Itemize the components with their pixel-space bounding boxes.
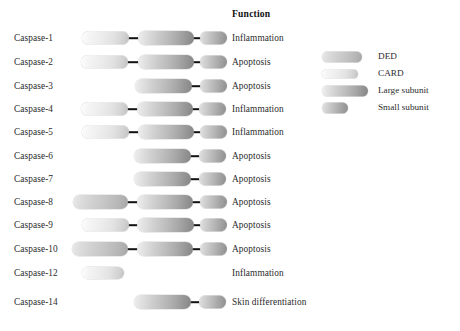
domain-track	[0, 27, 232, 49]
domain-small	[200, 32, 227, 45]
legend-item: Small subunit	[322, 99, 458, 116]
function-label: Inflammation	[232, 98, 284, 120]
legend-item: CARD	[322, 65, 458, 82]
domain-track	[0, 51, 232, 73]
domain-large	[137, 242, 193, 256]
function-label: Apoptosis	[232, 145, 271, 167]
function-label: Apoptosis	[232, 168, 271, 190]
domain-card	[81, 103, 128, 116]
caspase-row: Caspase-9Apoptosis	[0, 214, 460, 236]
legend-item: Large subunit	[322, 82, 458, 99]
legend-label: Small subunit	[378, 99, 429, 116]
domain-small	[200, 219, 227, 232]
domain-small	[200, 56, 227, 69]
domain-large	[134, 149, 191, 163]
domain-track	[0, 191, 232, 213]
caspase-row: Caspase-5Inflammation	[0, 121, 460, 143]
legend-swatch-small	[322, 102, 348, 113]
caspase-row: Caspase-14Skin differentiation	[0, 291, 460, 313]
caspase-row: Caspase-12Inflammation	[0, 262, 460, 284]
domain-small	[199, 296, 226, 309]
legend: DEDCARDLarge subunitSmall subunit	[322, 48, 458, 116]
caspase-row: Caspase-8Apoptosis	[0, 191, 460, 213]
function-label: Inflammation	[232, 262, 284, 284]
domain-track	[0, 262, 232, 284]
legend-label: CARD	[378, 65, 404, 82]
caspase-row: Caspase-10Apoptosis	[0, 238, 460, 260]
domain-large	[137, 218, 194, 232]
legend-swatch-ded	[322, 51, 362, 62]
domain-small	[200, 80, 227, 93]
domain-small	[200, 126, 227, 139]
domain-large	[137, 102, 193, 116]
domain-large	[134, 295, 191, 309]
function-label: Apoptosis	[232, 191, 271, 213]
domain-track	[0, 145, 232, 167]
domain-card	[82, 219, 129, 232]
domain-track	[0, 238, 232, 260]
caspase-row: Caspase-1Inflammation	[0, 27, 460, 49]
domain-track	[0, 168, 232, 190]
domain-large	[137, 195, 193, 209]
domain-track	[0, 291, 232, 313]
function-label: Inflammation	[232, 121, 284, 143]
domain-large	[138, 125, 194, 139]
domain-large	[135, 79, 192, 93]
domain-large	[138, 55, 194, 69]
legend-label: DED	[378, 48, 397, 65]
domain-track	[0, 214, 232, 236]
function-label: Inflammation	[232, 27, 284, 49]
legend-swatch-large	[322, 85, 368, 96]
domain-large	[134, 172, 191, 186]
function-column-header: Function	[232, 8, 270, 19]
domain-small	[199, 150, 226, 163]
legend-swatch-card	[322, 69, 358, 78]
function-label: Apoptosis	[232, 51, 271, 73]
domain-small	[199, 173, 226, 186]
domain-ded	[73, 195, 128, 209]
domain-card	[82, 126, 129, 139]
domain-track	[0, 121, 232, 143]
legend-item: DED	[322, 48, 458, 65]
function-label: Apoptosis	[232, 214, 271, 236]
domain-small	[200, 243, 227, 256]
function-label: Skin differentiation	[232, 291, 306, 313]
domain-small	[199, 103, 226, 116]
caspase-row: Caspase-6Apoptosis	[0, 145, 460, 167]
domain-card	[82, 267, 124, 279]
domain-large	[138, 31, 194, 45]
domain-track	[0, 75, 232, 97]
domain-ded	[72, 242, 128, 256]
domain-track	[0, 98, 232, 120]
legend-label: Large subunit	[378, 82, 429, 99]
caspase-row: Caspase-7Apoptosis	[0, 168, 460, 190]
function-label: Apoptosis	[232, 75, 271, 97]
function-label: Apoptosis	[232, 238, 271, 260]
domain-small	[200, 196, 227, 209]
caspase-domain-figure: Function Caspase-1InflammationCaspase-2A…	[0, 0, 460, 331]
domain-card	[81, 56, 128, 69]
domain-card	[82, 32, 129, 45]
